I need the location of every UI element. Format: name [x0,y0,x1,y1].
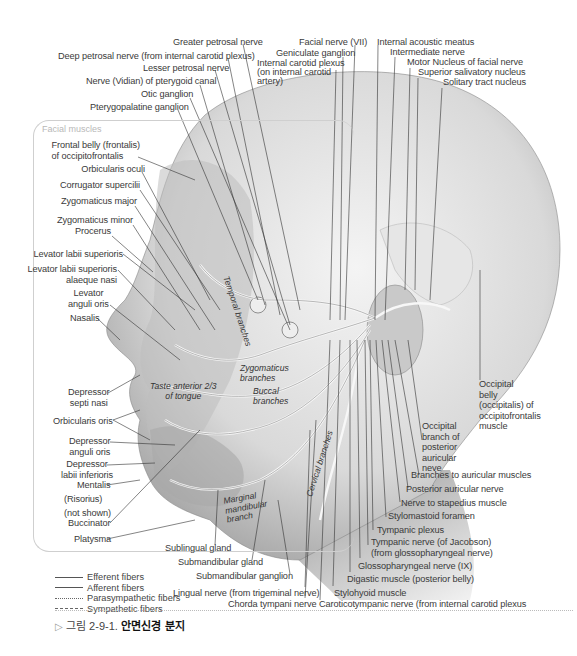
label-line: anguli oris [69,447,110,458]
label-depressor-septi: Depressor septi nasi [68,387,109,408]
label-chorda-tympani: Chorda tympani nerve [228,599,316,610]
label-deep-petrosal: Deep petrosal nerve (from internal carot… [58,51,255,62]
label-line: occipitofrontalis [479,411,541,422]
label-line: auricular [422,453,459,464]
legend-label: Efferent fibers [87,572,144,582]
label-tympanic-plexus: Tympanic plexus [377,525,444,536]
label-line: Levator labii superioris [27,264,117,275]
label-line: Occipital [422,421,459,432]
label-levator-anguli-oris: Levator anguli oris [68,288,109,309]
label-ica-plexus: Internal carotid plexus (on internal car… [257,59,345,86]
label-line: Depressor [68,387,109,398]
label-line: septi nasi [68,398,109,409]
label-line: labii inferioris [61,470,113,481]
label-submandibular-ganglion: Submandibular ganglion [196,571,293,582]
label-otic-ganglion: Otic ganglion [141,89,193,100]
label-occipital-branch: Occipital branch of posterior auricular … [422,421,459,474]
label-facial-nerve: Facial nerve (VII) [299,37,367,48]
label-zygomaticus-major: Zygomaticus major [61,196,137,207]
label-buccinator: Buccinator [68,518,110,529]
label-frontal-belly: Frontal belly (frontalis) of occipitofro… [52,140,140,161]
label-line: (occipitalis) of [479,400,541,411]
label-superior-salivatory: Superior salivatory nucleus [418,67,526,78]
label-line: Frontal belly (frontalis) [52,140,140,151]
label-line: branch of [422,432,459,443]
label-caroticotympanic: Caroticotympanic nerve (from internal ca… [319,599,526,610]
label-line: muscle [479,421,541,432]
label-tympanic-nerve: Tympanic nerve (of Jacobson) (from gloss… [371,537,493,558]
legend-parasympathetic: Parasympathetic fibers [55,593,180,604]
label-solitary-tract: Solitary tract nucleus [443,77,526,88]
label-line: of tongue [150,392,217,402]
label-depressor-anguli: Depressor anguli oris [69,436,110,457]
label-stylohyoid: Stylohyoid muscle [334,588,406,599]
label-line: (not shown) [64,508,111,519]
label-line: posterior [422,442,459,453]
label-platysma: Platysma [74,534,111,545]
legend-sympathetic: Sympathetic fibers [55,604,180,615]
label-levator-labii: Levator labii superioris [33,249,123,260]
label-geniculate: Geniculate ganglion [276,48,355,59]
legend-efferent: Efferent fibers [55,572,180,583]
label-line: of occipitofrontalis [52,151,140,162]
label-line: branches [253,397,288,407]
label-zygomaticus-minor: Zygomaticus minor [57,215,133,226]
legend-afferent: Afferent fibers [55,583,180,594]
label-zygomatic-branches: Zygomaticus branches [240,364,289,383]
label-taste: Taste anterior 2/3 of tongue [150,382,217,401]
label-line: (from glossopharyngeal nerve) [371,548,493,559]
solid-line-icon [55,577,83,578]
caption-divider [55,610,573,611]
triangle-right-icon: ▷ [55,621,63,632]
fiber-legend: Efferent fibers Afferent fibers Parasymp… [55,572,180,614]
label-depressor-labii: Depressor labii inferioris [61,459,113,480]
legend-label: Parasympathetic fibers [87,593,180,603]
caption-title: 안면신경 분지 [121,620,185,633]
label-lesser-petrosal: Lesser petrosal nerve [143,63,229,74]
label-mentalis: Mentalis [77,480,110,491]
label-line: Occipital [479,379,541,390]
label-levator-labii-alaeque: Levator labii superioris alaeque nasi [27,264,117,285]
label-line: alaeque nasi [27,275,117,286]
label-nerve-stapedius: Nerve to stapedius muscle [401,498,507,509]
caption-prefix: 그림 2-9-1. [66,620,118,632]
label-occipital-belly: Occipital belly (occipitalis) of occipit… [479,379,541,432]
label-motor-nucleus: Motor Nucleus of facial nerve [407,57,523,68]
label-lingual-nerve: Lingual nerve (from trigeminal nerve) [173,588,319,599]
label-stylomastoid: Stylomastoid foramen [388,511,475,522]
label-posterior-auricular: Posterior auricular nerve [406,484,504,495]
label-procerus: Procerus [75,226,111,237]
label-risorius: (Risorius) (not shown) [64,494,111,518]
label-buccal-branches: Buccal branches [253,387,288,406]
label-internal-acoustic-meatus: Internal acoustic meatus [377,37,474,48]
label-intermediate-nerve: Intermediate nerve [390,47,465,58]
label-line: artery) [257,77,345,86]
dotted-line-icon [55,598,83,599]
label-greater-petrosal: Greater petrosal nerve [173,37,263,48]
legend-label: Afferent fibers [87,583,144,593]
label-digastric: Digastic muscle (posterior belly) [347,574,474,585]
label-corrugator: Corrugator supercilii [60,180,140,191]
label-vidian: Nerve (Vidian) of pterygoid canal [86,76,216,87]
label-branches-auricular: Branches to auricular muscles [411,470,531,481]
label-nasalis: Nasalis [70,313,99,324]
label-glossopharyngeal: Glossopharyngeal nerve (IX) [358,561,472,572]
label-sublingual-gland: Sublingual gland [165,543,231,554]
label-line: Levator [68,288,109,299]
solid-line-icon [55,587,83,588]
label-line: belly [479,390,541,401]
label-orbicularis-oculi: Orbicularis oculi [81,164,145,175]
label-line: Depressor [69,436,110,447]
label-pterygopalatine: Pterygopalatine ganglion [90,102,189,113]
label-line: (Risorius) [64,494,111,505]
facial-muscles-title: Facial muscles [42,124,102,134]
label-line: Tympanic nerve (of Jacobson) [371,537,493,548]
label-submandibular-gland: Submandibular gland [178,557,263,568]
label-orbicularis-oris: Orbicularis oris [53,416,113,427]
label-line: branches [240,374,289,384]
legend-label: Sympathetic fibers [87,604,163,614]
label-line: anguli oris [68,299,109,310]
figure-caption: ▷ 그림 2-9-1. 안면신경 분지 [55,617,185,633]
label-line: Depressor [61,459,113,470]
